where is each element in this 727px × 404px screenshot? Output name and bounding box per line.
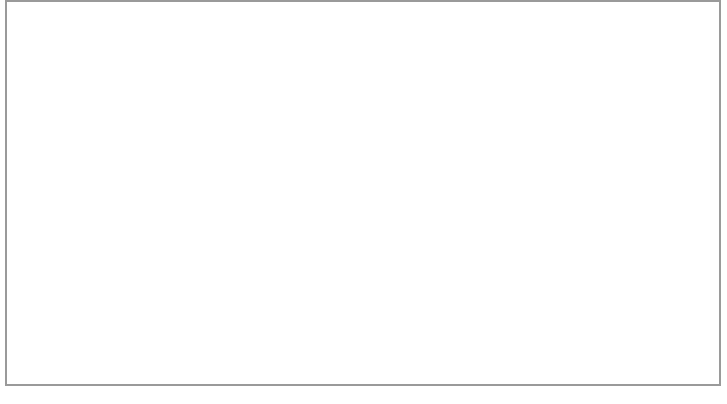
- rod-tip-section: [146, 95, 158, 101]
- angler-cap-icon: [76, 97, 98, 107]
- caption-line-3: rotating again. In flowing water, the sp…: [286, 350, 722, 364]
- angler-silhouette: [62, 97, 111, 187]
- illustration-page: A standard spinner can almost be jig-fis…: [0, 0, 727, 404]
- cast-trajectory-arc: [157, 15, 651, 208]
- trout-eye: [115, 302, 119, 306]
- caption-line-1: A standard spinner can almost be jig-fis…: [286, 322, 722, 336]
- fishing-rod: [106, 95, 158, 121]
- caption-line-2: ner sink with a series of spin-stops, th…: [286, 336, 722, 350]
- cast-direction-arrow-icon: [384, 21, 397, 27]
- inset-photo-graphic: [21, 252, 241, 362]
- cast-arc-path: [157, 15, 651, 196]
- caption-text: A standard spinner can almost be jig-fis…: [286, 322, 722, 365]
- underwater-inset-photo: [18, 249, 244, 365]
- angler-hand: [103, 120, 110, 126]
